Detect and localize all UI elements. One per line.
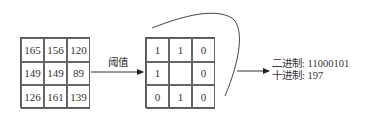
grid-cell: 149 <box>21 62 44 86</box>
binary-pattern-grid: 1 1 0 1 0 0 1 0 <box>145 37 215 108</box>
grid-cell: 0 <box>192 62 215 86</box>
grid-cell: 1 <box>169 38 192 62</box>
grid-cell: 156 <box>44 38 67 62</box>
grid-cell: 1 <box>146 62 169 86</box>
grid-cell: 165 <box>21 38 44 62</box>
grid-cell-center <box>169 62 192 86</box>
grid-cell: 89 <box>67 62 90 86</box>
grid-cell: 126 <box>21 85 44 109</box>
grid-cell: 0 <box>146 85 169 109</box>
grid-cell: 139 <box>67 85 90 109</box>
threshold-label: 阈值 <box>108 57 128 69</box>
grid-cell: 161 <box>44 85 67 109</box>
grid-cell: 120 <box>67 38 90 62</box>
decimal-result: 十进制: 197 <box>272 70 323 82</box>
grid-cell: 0 <box>192 85 215 109</box>
grid-cell: 0 <box>192 38 215 62</box>
grid-cell: 1 <box>169 85 192 109</box>
grid-cell: 1 <box>146 38 169 62</box>
grid-cell-center: 149 <box>44 62 67 86</box>
binary-result: 二进制: 11000101 <box>272 58 349 70</box>
input-pixel-grid: 165 156 120 149 149 89 126 161 139 <box>20 37 90 108</box>
